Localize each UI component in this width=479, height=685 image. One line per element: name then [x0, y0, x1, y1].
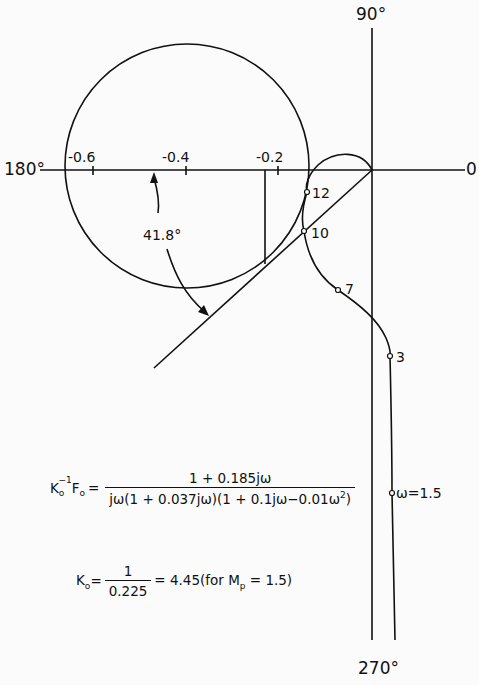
label-0deg: 0 — [466, 161, 477, 178]
formula2-denominator: 0.225 — [105, 580, 152, 599]
formula2-equals: = — [90, 573, 101, 589]
tick-label-neg0.6: -0.6 — [68, 150, 95, 164]
tick-label-neg0.4: -0.4 — [162, 150, 189, 164]
formula2-numerator: 1 — [120, 563, 137, 580]
arrowhead-up — [150, 172, 158, 183]
angle-arc-arrow — [154, 178, 159, 213]
formula2-lhs: Ko — [76, 572, 90, 591]
angle-arc-arrow-lower — [167, 249, 205, 312]
label-180deg: 180° — [4, 161, 45, 178]
m-circle — [65, 44, 309, 288]
formula2-fraction: 1 0.225 — [105, 563, 152, 599]
omega-label-1.5: ω=1.5 — [396, 486, 442, 500]
formula1-equals: = — [88, 480, 99, 496]
point-omega-7 — [336, 288, 341, 293]
gain-formula: Ko = 1 0.225 = 4.45(for Mp = 1.5) — [76, 563, 292, 599]
omega-label-12: 12 — [312, 186, 330, 200]
formula1-lhs: Ko−1Fo — [50, 479, 85, 498]
omega-label-3: 3 — [396, 350, 405, 364]
point-omega-10 — [302, 229, 307, 234]
formula1-denominator: jω(1 + 0.037jω)(1 + 0.1jω−0.01ω2) — [105, 487, 355, 507]
formula1-fraction: 1 + 0.185jω jω(1 + 0.037jω)(1 + 0.1jω−0.… — [105, 470, 355, 507]
point-omega-12 — [305, 190, 310, 195]
omega-label-7: 7 — [345, 282, 354, 296]
tick-label-neg0.2: -0.2 — [256, 150, 283, 164]
tangent-line — [154, 170, 372, 368]
point-omega-3 — [388, 354, 393, 359]
label-90deg: 90° — [356, 6, 386, 23]
omega-label-10: 10 — [311, 226, 329, 240]
angle-label: 41.8° — [143, 228, 181, 242]
transfer-function-formula: Ko−1Fo = 1 + 0.185jω jω(1 + 0.037jω)(1 +… — [50, 470, 358, 507]
formula1-numerator: 1 + 0.185jω — [185, 470, 275, 487]
label-270deg: 270° — [358, 660, 399, 677]
formula2-rhs: = 4.45(for Mp = 1.5) — [154, 572, 292, 591]
point-omega-1.5 — [390, 491, 395, 496]
